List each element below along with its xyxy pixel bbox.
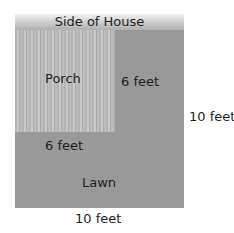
- yard-side-dimension: 10 feet: [189, 109, 234, 124]
- house-side-band: Side of House: [15, 14, 184, 30]
- house-label: Side of House: [15, 14, 184, 30]
- yard-bottom-dimension: 10 feet: [75, 211, 121, 226]
- porch-label: Porch: [45, 71, 81, 86]
- lawn-label: Lawn: [82, 175, 116, 190]
- porch-side-dimension: 6 feet: [121, 74, 159, 89]
- porch-bottom-dimension: 6 feet: [45, 138, 83, 153]
